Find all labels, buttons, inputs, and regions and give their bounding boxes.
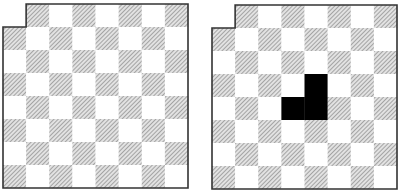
hatched-cell: [258, 166, 281, 189]
light-cell: [351, 143, 374, 166]
light-cell: [258, 51, 281, 74]
hatched-cell: [119, 4, 142, 27]
hatched-cell: [212, 74, 235, 97]
light-cell: [305, 143, 328, 166]
light-cell: [96, 4, 119, 27]
deficient-checkerboard-right-with-tromino: [212, 5, 397, 189]
light-cell: [142, 50, 165, 73]
hatched-cell: [96, 73, 119, 96]
hatched-cell: [119, 96, 142, 119]
hatched-cell: [26, 50, 49, 73]
tromino-cell: [305, 74, 328, 97]
tromino-cell: [281, 97, 304, 120]
hatched-cell: [3, 27, 26, 50]
hatched-cell: [374, 143, 397, 166]
hatched-cell: [351, 74, 374, 97]
light-cell: [72, 73, 95, 96]
light-cell: [72, 27, 95, 50]
hatched-cell: [328, 51, 351, 74]
hatched-cell: [212, 120, 235, 143]
hatched-cell: [374, 97, 397, 120]
light-cell: [235, 74, 258, 97]
light-cell: [3, 50, 26, 73]
hatched-cell: [235, 5, 258, 28]
light-cell: [212, 143, 235, 166]
hatched-cell: [258, 28, 281, 51]
hatched-cell: [142, 73, 165, 96]
light-cell: [165, 73, 188, 96]
hatched-cell: [142, 119, 165, 142]
hatched-cell: [49, 27, 72, 50]
light-cell: [212, 97, 235, 120]
light-cell: [72, 165, 95, 188]
hatched-cell: [72, 96, 95, 119]
hatched-cell: [212, 166, 235, 189]
hatched-cell: [142, 27, 165, 50]
light-cell: [235, 166, 258, 189]
light-cell: [258, 97, 281, 120]
hatched-cell: [96, 27, 119, 50]
light-cell: [305, 51, 328, 74]
hatched-cell: [328, 143, 351, 166]
light-cell: [235, 28, 258, 51]
deficient-board-svg: [3, 4, 188, 188]
hatched-cell: [119, 50, 142, 73]
light-cell: [328, 74, 351, 97]
light-cell: [142, 4, 165, 27]
light-cell: [96, 50, 119, 73]
light-cell: [26, 119, 49, 142]
hatched-cell: [49, 119, 72, 142]
light-cell: [328, 120, 351, 143]
hatched-cell: [165, 142, 188, 165]
light-cell: [212, 51, 235, 74]
hatched-cell: [374, 5, 397, 28]
light-cell: [26, 165, 49, 188]
hatched-cell: [328, 5, 351, 28]
light-cell: [281, 120, 304, 143]
hatched-cell: [165, 4, 188, 27]
hatched-cell: [26, 96, 49, 119]
hatched-cell: [165, 50, 188, 73]
light-cell: [26, 27, 49, 50]
hatched-cell: [119, 142, 142, 165]
hatched-cell: [72, 50, 95, 73]
hatched-cell: [3, 165, 26, 188]
hatched-cell: [305, 120, 328, 143]
hatched-cell: [258, 120, 281, 143]
hatched-cell: [258, 74, 281, 97]
light-cell: [374, 120, 397, 143]
hatched-cell: [235, 97, 258, 120]
hatched-cell: [3, 119, 26, 142]
light-cell: [235, 120, 258, 143]
light-cell: [305, 5, 328, 28]
hatched-cell: [281, 143, 304, 166]
light-cell: [281, 166, 304, 189]
hatched-cell: [281, 51, 304, 74]
light-cell: [26, 73, 49, 96]
hatched-cell: [72, 4, 95, 27]
light-cell: [49, 4, 72, 27]
light-cell: [351, 97, 374, 120]
light-cell: [281, 74, 304, 97]
light-cell: [142, 96, 165, 119]
hatched-cell: [328, 97, 351, 120]
hatched-cell: [3, 73, 26, 96]
hatched-cell: [351, 166, 374, 189]
light-cell: [119, 165, 142, 188]
light-cell: [351, 51, 374, 74]
light-cell: [165, 119, 188, 142]
hatched-cell: [281, 5, 304, 28]
hatched-cell: [305, 28, 328, 51]
light-cell: [374, 28, 397, 51]
hatched-cell: [305, 166, 328, 189]
hatched-cell: [26, 142, 49, 165]
light-cell: [72, 119, 95, 142]
deficient-checkerboard-left: [3, 4, 188, 188]
hatched-cell: [96, 119, 119, 142]
light-cell: [3, 96, 26, 119]
light-cell: [119, 119, 142, 142]
hatched-cell: [235, 143, 258, 166]
light-cell: [49, 50, 72, 73]
hatched-cell: [374, 51, 397, 74]
light-cell: [374, 166, 397, 189]
